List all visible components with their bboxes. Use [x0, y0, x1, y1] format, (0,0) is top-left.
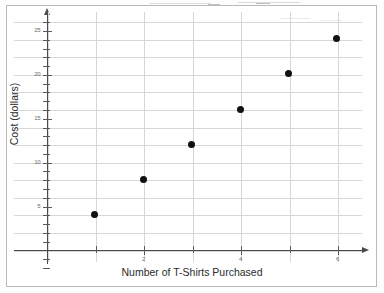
gridline-horizontal — [14, 40, 362, 41]
y-axis-tick-label: 15 — [23, 115, 41, 121]
gridline-vertical — [48, 12, 49, 262]
y-axis-tick — [43, 22, 50, 23]
gridline-vertical — [338, 12, 339, 262]
data-point — [237, 106, 244, 113]
x-axis-tick-label: 4 — [232, 256, 250, 262]
y-axis-tick — [43, 145, 50, 146]
gridline-horizontal — [14, 163, 362, 164]
x-axis-tick — [290, 246, 291, 253]
y-axis-tick — [43, 154, 50, 155]
y-axis-tick — [43, 57, 50, 58]
gridline-vertical — [144, 12, 145, 262]
data-point — [333, 35, 340, 42]
x-axis-tick — [241, 246, 242, 255]
y-axis-tick — [43, 207, 52, 208]
y-axis-line — [47, 14, 48, 264]
y-axis-tick-label: 25 — [23, 27, 41, 33]
x-axis-line — [14, 250, 362, 251]
gridline-horizontal — [14, 198, 362, 199]
y-axis-tick-label: 20 — [23, 71, 41, 77]
gridline-vertical — [290, 12, 291, 262]
y-axis-tick — [43, 215, 50, 216]
gridline-horizontal — [14, 180, 362, 181]
gridline-horizontal — [14, 215, 362, 216]
y-axis-tick — [43, 180, 50, 181]
gridline-vertical — [241, 12, 242, 262]
y-axis-tick — [43, 75, 52, 76]
y-axis-tick — [43, 119, 52, 120]
x-axis-tick — [96, 246, 97, 253]
y-axis-tick-label: 10 — [23, 159, 41, 165]
y-axis-tick — [43, 224, 50, 225]
y-axis-tick — [43, 198, 50, 199]
y-axis-tick — [43, 31, 52, 32]
x-axis-tick — [144, 246, 145, 255]
gridline-horizontal — [14, 57, 362, 58]
y-axis-tick — [43, 66, 50, 67]
plot-area: 510152025246 — [0, 0, 384, 293]
y-axis-title: Cost (dollars) — [8, 54, 20, 174]
y-axis-tick — [43, 128, 50, 129]
y-axis-tick — [43, 163, 52, 164]
y-axis-tick — [43, 242, 50, 243]
gridline-horizontal — [14, 251, 362, 252]
data-point — [140, 176, 147, 183]
y-axis-tick — [43, 171, 50, 172]
x-axis-tick — [338, 246, 339, 255]
x-axis-tick-label: 6 — [329, 256, 347, 262]
y-axis-tick — [43, 259, 50, 260]
scatter-plot-figure: 510152025246 Number of T-Shirts Purchase… — [0, 0, 384, 293]
y-axis-tick — [43, 49, 50, 50]
gridline-horizontal — [14, 110, 362, 111]
y-axis-tick — [43, 84, 50, 85]
data-point — [285, 70, 292, 77]
x-axis-title: Number of T-Shirts Purchased — [0, 266, 384, 278]
y-axis-tick — [43, 136, 50, 137]
y-axis-tick-label: 5 — [23, 203, 41, 209]
y-axis-tick — [43, 233, 50, 234]
gridline-vertical — [193, 12, 194, 262]
y-axis-tick — [43, 92, 50, 93]
gridline-horizontal — [14, 75, 362, 76]
y-axis-tick — [43, 189, 50, 190]
y-axis-tick — [43, 101, 50, 102]
x-axis-tick-label: 2 — [135, 256, 153, 262]
gridline-horizontal — [14, 128, 362, 129]
data-point — [188, 141, 195, 148]
gridline-horizontal — [14, 22, 362, 23]
y-axis-tick — [43, 40, 50, 41]
x-axis-arrow-icon — [362, 247, 369, 253]
data-point — [91, 211, 98, 218]
x-axis-tick — [193, 246, 194, 253]
gridline-vertical — [96, 12, 97, 262]
y-axis-tick — [43, 110, 50, 111]
gridline-horizontal — [14, 233, 362, 234]
gridline-horizontal — [14, 92, 362, 93]
